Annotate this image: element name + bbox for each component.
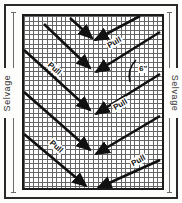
fabric-panel: Pull Pull Pull Pull Pull 6" xyxy=(22,14,164,190)
selvage-rail-right-cap-bottom xyxy=(167,192,172,193)
figure-frame-bottom xyxy=(4,197,178,199)
pull-arrow xyxy=(96,74,160,114)
selvage-rail-left-cap-bottom xyxy=(11,192,16,193)
figure-frame-top xyxy=(4,4,178,6)
selvage-label-left: Selvage xyxy=(0,68,14,118)
pull-arrow xyxy=(98,160,160,188)
arc-bracket-icon xyxy=(129,60,136,82)
dimension-label: 6" xyxy=(138,64,148,73)
selvage-label-right: Selvage xyxy=(168,68,182,118)
pull-arrow xyxy=(96,116,160,154)
selvage-rail-right-cap-top xyxy=(167,12,172,13)
pull-arrow xyxy=(70,18,92,38)
pull-arrow xyxy=(96,32,160,72)
selvage-rail-left-cap-top xyxy=(11,12,16,13)
fabric-pull-diagram: Selvage Selvage xyxy=(0,0,182,203)
